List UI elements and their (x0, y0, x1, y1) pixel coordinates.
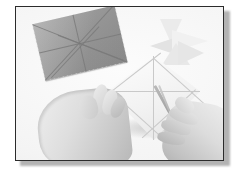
figure-photograph: Hands cutting a creased folded paper wit… (0, 0, 235, 175)
photo-frame (15, 6, 224, 161)
figure-caption: Hands cutting a creased folded paper wit… (0, 0, 1, 1)
